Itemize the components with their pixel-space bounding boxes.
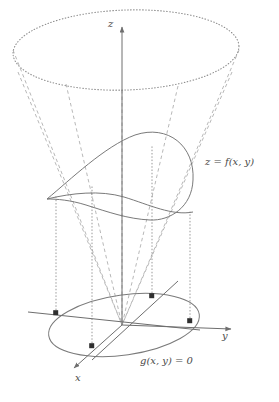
axes: [28, 27, 231, 368]
surface-lower-edge: [47, 199, 150, 220]
constraint-equation-label: g(x, y) = 0: [140, 356, 193, 366]
top-ellipse-path: [12, 6, 241, 94]
x-axis-line: [74, 325, 122, 368]
surface-fold-curve: [47, 193, 193, 213]
cone-line-left-rim: [18, 72, 122, 325]
cone-generator-lines: [13, 50, 239, 325]
marked-point-back-right: [149, 293, 154, 298]
y-axis-label: y: [222, 331, 228, 341]
y-axis-line: [122, 325, 231, 329]
surface-upper-edge: [47, 132, 193, 220]
marked-point-front: [89, 343, 94, 348]
cone-line-right-outer: [122, 50, 239, 325]
math-figure: z x y z = f(x, y) g(x, y) = 0: [0, 0, 279, 402]
x-axis-label: x: [75, 373, 81, 383]
cone-line-right-rim: [122, 72, 232, 325]
top-dotted-ellipse: [12, 6, 241, 94]
figure-canvas: [0, 0, 279, 402]
cone-line-left-mid: [66, 84, 122, 325]
marked-point-left: [53, 310, 58, 315]
vertical-dotted-droplines: [56, 146, 190, 346]
z-axis-label: z: [108, 19, 113, 29]
surface-equation-label: z = f(x, y): [205, 157, 254, 167]
surface-patch: [47, 132, 193, 220]
marked-point-right: [187, 318, 192, 323]
